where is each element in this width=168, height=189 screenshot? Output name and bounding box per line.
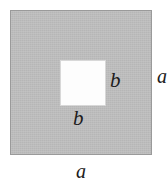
side-label-b-right: b <box>110 70 121 91</box>
geometry-figure-canvas: b b a a <box>0 0 168 189</box>
side-label-b-bottom: b <box>73 108 84 129</box>
inner-white-square <box>60 60 106 106</box>
side-label-a-right: a <box>157 66 167 86</box>
side-label-a-bottom: a <box>76 161 86 181</box>
